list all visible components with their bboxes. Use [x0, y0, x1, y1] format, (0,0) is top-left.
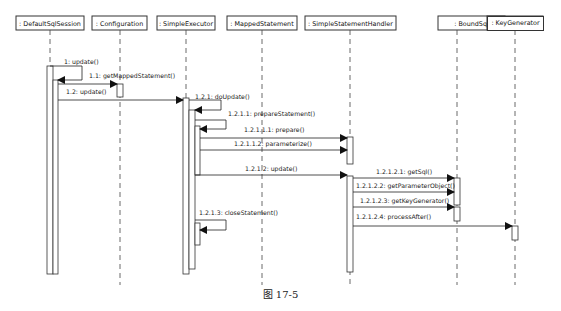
activation-handler-prepare: [347, 137, 353, 164]
figure-caption: 图 17-5: [0, 286, 561, 301]
participant-label: : SimpleStatementHandler: [308, 20, 393, 28]
message-label: 1.2.1.3: closeStatement(): [199, 209, 278, 216]
activation-handler-update: [347, 176, 353, 272]
activation-prepare-statement: [195, 126, 200, 175]
participant-label: : MappedStatement: [230, 20, 294, 28]
activation-configuration: [117, 84, 123, 97]
participant-mapped-statement: : MappedStatement: [227, 16, 297, 30]
message-label: 1.2.1.1.2: parameterize(): [234, 140, 312, 148]
message-label: 1.2.1.2.1: getSql(): [376, 168, 432, 176]
activation-do-update: [189, 110, 195, 269]
participant-simple-executor: : SimpleExecutor: [157, 16, 215, 30]
message-label: 1.2.1.2: update(): [245, 165, 297, 173]
activation-default-sql-session-nested: [53, 80, 58, 274]
message-label: 1.2.1.2.3: getKeyGenerator(): [360, 197, 449, 205]
message-labels: 1: update() 1.1: getMappedStatement() 1.…: [64, 58, 455, 221]
activation-default-sql-session: [47, 66, 53, 274]
message-label: 1.2.1.1: prepareStatement(): [228, 110, 315, 118]
participant-label: : SimpleExecutor: [159, 20, 214, 28]
message-label: 1: update(): [64, 58, 99, 66]
participant-key-generator-box: : KeyGenerator: [487, 16, 544, 31]
message-label: 1.2.1.2.2: getParameterObject(): [356, 182, 455, 190]
activation-bound-sql-2: [454, 207, 460, 221]
message-1-update: [50, 66, 82, 80]
sequence-diagram: : DefaultSqlSession : Configuration : Si…: [0, 0, 561, 311]
participant-label: : Configuration: [96, 20, 144, 28]
activation-simple-executor: [183, 98, 189, 274]
message-label: 1.1: getMappedStatement(): [89, 72, 175, 80]
activation-close-statement: [195, 223, 200, 245]
activation-key-generator: [512, 226, 518, 240]
participant-simple-statement-handler: : SimpleStatementHandler: [305, 16, 396, 30]
participant-label: : KeyGenerator: [491, 19, 539, 27]
message-label: 1.2.1.1.1: prepare(): [244, 126, 305, 134]
participant-label: : DefaultSqlSession: [19, 20, 81, 28]
participant-label: : BoundSql: [454, 20, 489, 28]
participant-configuration: : Configuration: [92, 16, 147, 30]
lifelines: [50, 30, 515, 285]
participant-default-sql-session: : DefaultSqlSession: [16, 16, 84, 30]
message-label: 1.2.1: doUpdate(): [195, 93, 250, 101]
message-label: 1.2: update(): [66, 88, 107, 96]
message-1-2-1-do-update: [189, 100, 221, 110]
message-label: 1.2.1.2.4: processAfter(): [356, 213, 431, 221]
